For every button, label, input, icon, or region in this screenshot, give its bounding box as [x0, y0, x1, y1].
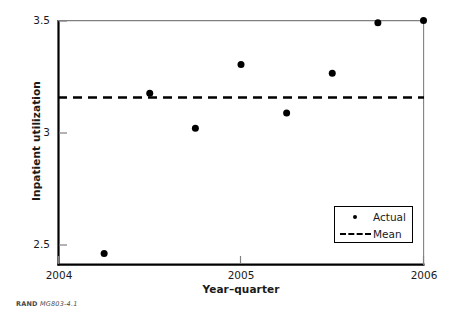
- y-tick-label-2.5: 2.5: [0, 239, 58, 249]
- y-tick-marks: [59, 21, 67, 245]
- x-axis-title: Year–quarter: [58, 283, 424, 295]
- data-point: [329, 70, 336, 77]
- y-axis-title: Inpatient utilization: [30, 31, 42, 251]
- data-point: [374, 19, 381, 26]
- credit-brand: RAND: [16, 300, 38, 308]
- chart-legend: Actual Mean: [334, 206, 413, 243]
- legend-marker-dash-icon: [339, 225, 372, 242]
- legend-label-actual: Actual: [373, 211, 406, 223]
- legend-label-mean: Mean: [373, 228, 402, 240]
- legend-marker-dot-icon: [339, 208, 372, 225]
- legend-entry-mean: Mean: [335, 225, 412, 242]
- x-tick-marks: [59, 256, 424, 264]
- data-point: [146, 90, 153, 97]
- x-tick-label-2005: 2005: [211, 270, 271, 281]
- y-tick-label-3.5: 3.5: [0, 15, 58, 25]
- data-point: [238, 61, 245, 68]
- data-point: [283, 109, 290, 116]
- data-point: [192, 125, 199, 132]
- data-point: [420, 17, 427, 24]
- chart-figure: 3.5 3 2.5 2004 2005 2006 Inpatient utili…: [0, 0, 456, 323]
- y-tick-label-3: 3: [0, 127, 58, 137]
- data-point: [101, 250, 108, 257]
- x-tick-label-2006: 2006: [394, 270, 454, 281]
- credit-document-id: MG803-4.1: [40, 300, 78, 308]
- legend-entry-actual: Actual: [335, 208, 412, 225]
- x-tick-label-2004: 2004: [29, 270, 89, 281]
- figure-credit: RAND MG803-4.1: [16, 300, 78, 308]
